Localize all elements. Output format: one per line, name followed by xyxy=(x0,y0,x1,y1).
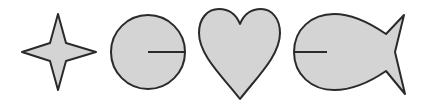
heart-shape xyxy=(199,9,280,99)
fish-shape xyxy=(294,14,405,94)
star-shape xyxy=(22,14,96,90)
heart-icon xyxy=(199,9,280,99)
shapes-figure xyxy=(0,0,427,106)
star-icon xyxy=(22,14,96,90)
fish-icon xyxy=(294,14,405,94)
circle-shape xyxy=(111,15,185,89)
